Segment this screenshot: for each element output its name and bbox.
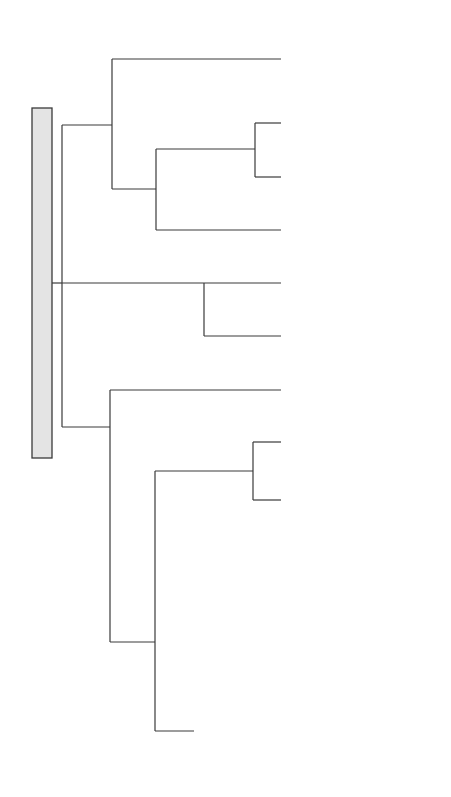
test-selection-flowchart <box>0 0 451 797</box>
title-box <box>32 108 52 458</box>
